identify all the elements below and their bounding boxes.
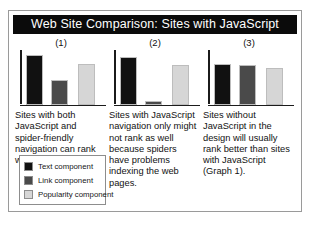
- legend-label: Link component: [38, 176, 93, 185]
- panel-label-1: (1): [15, 36, 107, 49]
- bar-popularity-component: [78, 64, 95, 105]
- legend-label: Popularity component: [38, 190, 113, 199]
- bar-chart-3: [203, 50, 295, 106]
- bar-chart-2: [109, 50, 201, 106]
- bar-text-component: [26, 55, 43, 104]
- chart-panel-2: (2) Sites with JavaScript navigation onl…: [109, 36, 201, 189]
- legend-swatch-icon: [24, 190, 33, 199]
- bar-link-component: [145, 101, 162, 104]
- bar-group-1: [26, 53, 105, 105]
- panel-caption-3: Sites without JavaScript in the design w…: [203, 110, 295, 178]
- chart-panel-3: (3) Sites without JavaScript in the desi…: [203, 36, 295, 178]
- legend-swatch-icon: [24, 176, 33, 185]
- bar-popularity-component: [172, 65, 189, 105]
- bar-group-2: [120, 53, 199, 105]
- panel-label-3: (3): [203, 36, 295, 49]
- chart-panel-1: (1) Sites with both JavaScript and spide…: [15, 36, 107, 166]
- x-axis-line: [20, 105, 106, 107]
- x-axis-line: [208, 105, 294, 107]
- bar-text-component: [214, 64, 231, 105]
- y-axis-line: [20, 50, 22, 104]
- x-axis-line: [114, 105, 200, 107]
- bar-text-component: [120, 57, 137, 105]
- y-axis-line: [114, 50, 116, 104]
- legend-item-link-component: Link component: [24, 174, 102, 186]
- panels-row: (1) Sites with both JavaScript and spide…: [13, 36, 297, 207]
- panel-caption-2: Sites with JavaScript navigation only mi…: [109, 110, 201, 189]
- bar-link-component: [51, 80, 68, 105]
- bar-popularity-component: [266, 68, 283, 104]
- legend-item-text-component: Text component: [24, 160, 102, 172]
- chart-legend: Text component Link component Popularity…: [19, 155, 106, 205]
- bar-chart-1: [15, 50, 107, 106]
- figure-title: Web Site Comparison: Sites with JavaScri…: [13, 15, 297, 34]
- figure-container: Web Site Comparison: Sites with JavaScri…: [8, 10, 302, 212]
- y-axis-line: [208, 50, 210, 104]
- legend-label: Text component: [38, 162, 93, 171]
- legend-item-popularity-component: Popularity component: [24, 188, 102, 200]
- bar-group-3: [214, 53, 293, 105]
- panel-label-2: (2): [109, 36, 201, 49]
- legend-swatch-icon: [24, 162, 33, 171]
- bar-link-component: [239, 65, 256, 105]
